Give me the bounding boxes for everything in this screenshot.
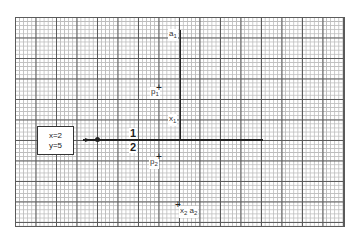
- fraction-denominator: 2: [129, 142, 137, 153]
- plus-marker-icon: +: [156, 83, 162, 93]
- input-y-value: y=5: [49, 141, 62, 151]
- input-x-value: x=2: [49, 131, 62, 141]
- label-a1: a1: [168, 29, 178, 41]
- label-x1-sub: 1: [173, 118, 176, 124]
- fraction-numerator: 1: [129, 128, 137, 139]
- label-x1: x1: [168, 114, 177, 126]
- input-value-box: x=2 y=5: [37, 126, 74, 155]
- label-x2-sub: 2: [184, 210, 187, 216]
- arrow-head-icon: [85, 138, 91, 142]
- label-a1-sub: 1: [173, 33, 176, 39]
- vertical-axis-line: [180, 30, 181, 140]
- junction-dot-icon: [95, 137, 100, 142]
- label-x2-a2: x2 a2: [179, 206, 198, 218]
- horizontal-signal-line: [83, 139, 263, 141]
- plus-marker-icon: +: [156, 152, 162, 162]
- label-a2-sub: 2: [194, 210, 197, 216]
